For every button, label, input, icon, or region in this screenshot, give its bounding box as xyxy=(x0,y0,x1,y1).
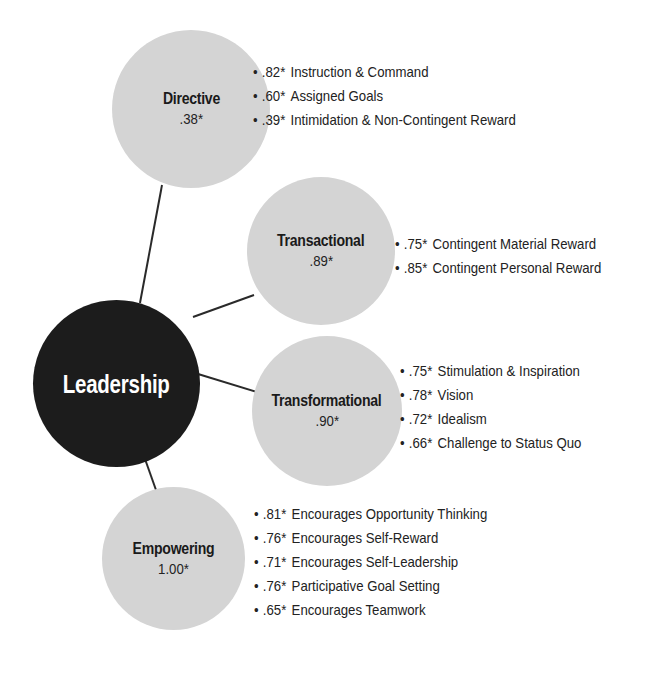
factor-node-empowering: Empowering 1.00* xyxy=(102,487,245,630)
list-item: •.66*Challenge to Status Quo xyxy=(400,431,581,455)
bullet-icon: • xyxy=(253,108,262,132)
factor-title: Transformational xyxy=(272,391,382,411)
list-item: •.65*Encourages Teamwork xyxy=(254,598,487,622)
item-list-transformational: •.75*Stimulation & Inspiration •.78*Visi… xyxy=(400,359,606,455)
factor-title: Transactional xyxy=(277,231,364,251)
connector-transformational xyxy=(198,374,257,392)
factor-loading: .89* xyxy=(309,251,332,271)
hub-node-leadership: Leadership xyxy=(33,300,200,467)
factor-loading: 1.00* xyxy=(158,559,189,579)
hub-title: Leadership xyxy=(63,374,170,394)
bullet-icon: • xyxy=(254,526,263,550)
connector-empowering xyxy=(145,459,156,490)
list-item: •.81*Encourages Opportunity Thinking xyxy=(254,502,487,526)
list-item: •.39*Intimidation & Non-Contingent Rewar… xyxy=(253,108,516,132)
list-item: •.60*Assigned Goals xyxy=(253,84,516,108)
bullet-icon: • xyxy=(253,60,262,84)
connector-transactional xyxy=(193,295,254,317)
list-item: •.75*Stimulation & Inspiration xyxy=(400,359,581,383)
factor-node-directive: Directive .38* xyxy=(112,30,270,188)
list-item: •.76*Participative Goal Setting xyxy=(254,574,487,598)
factor-node-transformational: Transformational .90* xyxy=(252,336,402,486)
factor-node-transactional: Transactional .89* xyxy=(247,177,395,325)
list-item: •.85*Contingent Personal Reward xyxy=(395,256,601,280)
bullet-icon: • xyxy=(395,232,404,256)
list-item: •.72*Idealism xyxy=(400,407,581,431)
bullet-icon: • xyxy=(254,598,263,622)
item-list-empowering: •.81*Encourages Opportunity Thinking •.7… xyxy=(254,502,519,622)
bullet-icon: • xyxy=(400,359,409,383)
list-item: •.78*Vision xyxy=(400,383,581,407)
list-item: •.71*Encourages Self-Leadership xyxy=(254,550,487,574)
list-item: •.76*Encourages Self-Reward xyxy=(254,526,487,550)
bullet-icon: • xyxy=(254,550,263,574)
bullet-icon: • xyxy=(400,431,409,455)
bullet-icon: • xyxy=(395,256,404,280)
bullet-icon: • xyxy=(254,502,263,526)
bullet-icon: • xyxy=(400,407,409,431)
bullet-icon: • xyxy=(254,574,263,598)
list-item: •.82*Instruction & Command xyxy=(253,60,516,84)
factor-title: Directive xyxy=(162,89,219,109)
connector-directive xyxy=(140,185,162,303)
factor-title: Empowering xyxy=(133,539,215,559)
factor-loading: .38* xyxy=(179,109,202,129)
bullet-icon: • xyxy=(400,383,409,407)
item-list-directive: •.82*Instruction & Command •.60*Assigned… xyxy=(253,60,552,132)
factor-loading: .90* xyxy=(315,411,338,431)
bullet-icon: • xyxy=(253,84,262,108)
item-list-transactional: •.75*Contingent Material Reward •.85*Con… xyxy=(395,232,629,280)
list-item: •.75*Contingent Material Reward xyxy=(395,232,601,256)
